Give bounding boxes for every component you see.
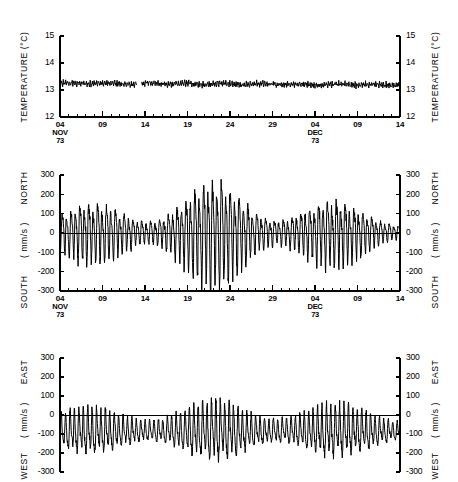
north-south-ytick-labels-right: 3002001000-100-200-300 — [406, 169, 423, 295]
ytick-label: 15 — [45, 30, 55, 40]
ytick-label: 300 — [40, 169, 54, 179]
ytick-label: -100 — [406, 247, 423, 257]
xtick-label: 29 — [268, 294, 277, 303]
ytick-label: 200 — [406, 371, 420, 381]
north-south-trace — [60, 179, 400, 291]
ytick-label: 200 — [40, 371, 54, 381]
ytick-label: -100 — [38, 428, 55, 438]
ytick-label: 0 — [49, 409, 54, 419]
ytick-label: 15 — [406, 30, 416, 40]
xtick-label: 14 — [141, 294, 150, 303]
xtick-year-label: 73 — [311, 136, 319, 145]
xtick-label: 09 — [353, 120, 362, 129]
temperature-left-axis-label-group: TEMPERATURE (°C) — [19, 32, 29, 123]
north-south-units-right: ( mm/s ) — [430, 222, 440, 258]
ytick-label: 300 — [406, 169, 420, 179]
xtick-label: 09 — [98, 120, 107, 129]
panel-north-south: NORTH ( mm/s ) SOUTH NORTH ( mm/s ) SOUT… — [19, 169, 440, 319]
ytick-label: 12 — [45, 111, 55, 121]
xtick-label: 14 — [396, 120, 405, 129]
ytick-label: 100 — [40, 390, 54, 400]
east-west-ytick-labels-right: 3002001000-100-200-300 — [406, 352, 423, 476]
temperature-ytick-labels-right: 15141312 — [406, 30, 416, 121]
xtick-year-label: 73 — [56, 310, 64, 319]
south-label-right: SOUTH — [430, 276, 440, 309]
temperature-right-axis-label: TEMPERATURE (°C) — [430, 32, 440, 123]
ytick-label: 14 — [406, 57, 416, 67]
ytick-label: -300 — [406, 466, 423, 476]
ytick-label: -100 — [406, 428, 423, 438]
xtick-label: 09 — [98, 294, 107, 303]
north-south-units-left: ( mm/s ) — [19, 222, 29, 258]
ytick-label: -200 — [38, 447, 55, 457]
panel-east-west: EAST ( mm/s ) WEST EAST ( mm/s ) WEST 30… — [19, 352, 440, 479]
xtick-label: 09 — [353, 294, 362, 303]
east-west-units-left: ( mm/s ) — [19, 402, 29, 438]
ytick-label: 0 — [406, 409, 411, 419]
ytick-label: 100 — [40, 208, 54, 218]
ytick-label: 0 — [406, 227, 411, 237]
ytick-label: 300 — [406, 352, 420, 362]
ytick-label: 14 — [45, 57, 55, 67]
figure-container: TEMPERATURE (°C) TEMPERATURE (°C) 151413… — [0, 0, 458, 482]
xtick-year-label: 73 — [56, 136, 64, 145]
temperature-trace — [60, 79, 400, 89]
east-label-left: EAST — [19, 360, 29, 385]
temperature-axes — [60, 36, 400, 117]
ytick-label: 200 — [406, 189, 420, 199]
xtick-label: 14 — [141, 120, 150, 129]
west-label-left: WEST — [19, 453, 29, 480]
ytick-label: 300 — [40, 352, 54, 362]
east-label-right: EAST — [430, 360, 440, 385]
xtick-label: 29 — [268, 120, 277, 129]
north-south-xaxis-ticks — [60, 285, 400, 291]
ytick-label: -300 — [406, 285, 423, 295]
ytick-label: -200 — [406, 447, 423, 457]
xtick-label: 19 — [183, 294, 192, 303]
temperature-left-axis-label: TEMPERATURE (°C) — [19, 32, 29, 123]
east-west-units-right: ( mm/s ) — [430, 402, 440, 438]
ytick-label: 0 — [49, 227, 54, 237]
ytick-label: -300 — [38, 285, 55, 295]
ytick-label: 100 — [406, 390, 420, 400]
xtick-label: 24 — [226, 120, 235, 129]
xtick-label: 24 — [226, 294, 235, 303]
temperature-right-axis-label-group: TEMPERATURE (°C) — [430, 32, 440, 123]
temperature-ytick-labels-left: 15141312 — [45, 30, 55, 121]
south-label-left: SOUTH — [19, 276, 29, 309]
panel-temperature: TEMPERATURE (°C) TEMPERATURE (°C) 151413… — [19, 30, 440, 145]
north-label-right: NORTH — [430, 171, 440, 204]
ytick-label: -200 — [38, 266, 55, 276]
east-west-trace — [60, 398, 400, 463]
west-label-right: WEST — [430, 453, 440, 480]
ytick-label: 200 — [40, 189, 54, 199]
ytick-label: 13 — [406, 84, 416, 94]
xtick-label: 14 — [396, 294, 405, 303]
east-west-ytick-labels-left: 3002001000-100-200-300 — [38, 352, 55, 476]
temperature-xtick-labels: 04NOV73091419242904DEC730914 — [52, 120, 405, 145]
north-south-ytick-labels-left: 3002001000-100-200-300 — [38, 169, 55, 295]
ytick-label: 13 — [45, 84, 55, 94]
ytick-label: -200 — [406, 266, 423, 276]
north-label-left: NORTH — [19, 171, 29, 204]
ytick-label: 100 — [406, 208, 420, 218]
north-south-xtick-labels: 04NOV73091419242904DEC730914 — [52, 294, 405, 319]
xtick-label: 19 — [183, 120, 192, 129]
ytick-label: -100 — [38, 247, 55, 257]
xtick-year-label: 73 — [311, 310, 319, 319]
temperature-xaxis-ticks — [60, 111, 400, 117]
ytick-label: 12 — [406, 111, 416, 121]
time-series-figure: TEMPERATURE (°C) TEMPERATURE (°C) 151413… — [0, 0, 458, 482]
ytick-label: -300 — [38, 466, 55, 476]
